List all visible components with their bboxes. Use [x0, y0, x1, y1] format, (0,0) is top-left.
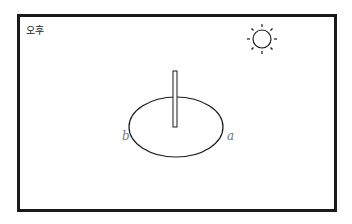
- sundial-scene: b a: [0, 0, 352, 224]
- sun-icon: [247, 24, 277, 54]
- point-label-b: b: [122, 129, 130, 143]
- point-label-a: a: [227, 129, 234, 143]
- gnomon-stick: [173, 71, 177, 127]
